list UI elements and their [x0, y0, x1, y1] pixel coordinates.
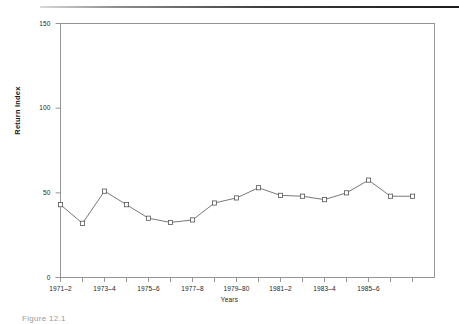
line-chart-plot	[0, 0, 459, 324]
chart-series-return-index	[58, 178, 414, 225]
y-tick-label: 50	[25, 189, 51, 196]
chart-ticks	[56, 24, 413, 283]
y-axis-title: Return Index	[13, 76, 22, 146]
y-tick-label: 100	[25, 104, 51, 111]
figure-caption: Figure 12.1	[22, 314, 66, 323]
y-tick-label: 0	[25, 274, 51, 281]
y-tick-label: 150	[25, 20, 51, 27]
chart-axes	[61, 24, 435, 278]
x-axis-title: Years	[0, 296, 459, 303]
figure-container: Return Index Years 050100150 1971–21973–…	[0, 0, 459, 324]
x-tick-label: 1985–6	[339, 285, 399, 292]
